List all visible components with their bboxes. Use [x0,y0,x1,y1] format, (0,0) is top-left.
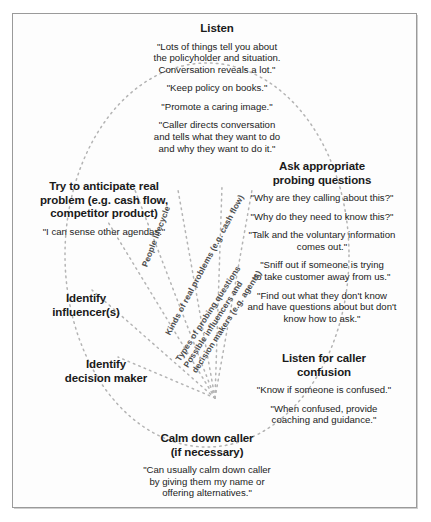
node-quote: "Talk and the voluntary information come… [228,229,416,252]
node-quote: "When confused, provide coaching and gui… [240,403,408,426]
node-ask-probing-questions: Ask appropriate probing questions "Why a… [228,160,416,324]
node-quote: "Keep policy on books." [112,82,322,94]
node-quote: "I can sense other agendas." [14,226,194,238]
node-heading: Identify influencer(s) [24,292,148,319]
node-heading: Listen [112,22,322,36]
node-quote: "Promote a caring image." [112,101,322,113]
node-listen-for-caller-confusion: Listen for caller confusion "Know if som… [240,352,408,426]
node-heading: Identify decision maker [44,358,168,385]
node-listen: Listen "Lots of things tell you about th… [112,22,322,154]
node-identify-influencers: Identify influencer(s) [24,292,148,324]
node-quote: "Why are they calling about this?" [228,192,416,204]
node-heading: Listen for caller confusion [240,352,408,379]
node-calm-down-caller: Calm down caller (if necessary) "Can usu… [110,432,304,499]
node-quote: "Lots of things tell you about the polic… [112,41,322,76]
node-heading: Ask appropriate probing questions [228,160,416,187]
node-quote: "Can usually calm down caller by giving … [110,464,304,499]
node-quote: "Find out what they don't know and have … [228,290,416,325]
node-quote: "Know if someone is confused." [240,384,408,396]
node-identify-decision-maker: Identify decision maker [44,358,168,390]
node-quote: "Why do they need to know this?" [228,211,416,223]
node-heading: Calm down caller (if necessary) [110,432,304,459]
node-quote: "Caller directs conversation and tells w… [112,119,322,154]
diagram-canvas: Listen "Lots of things tell you about th… [0,0,431,522]
